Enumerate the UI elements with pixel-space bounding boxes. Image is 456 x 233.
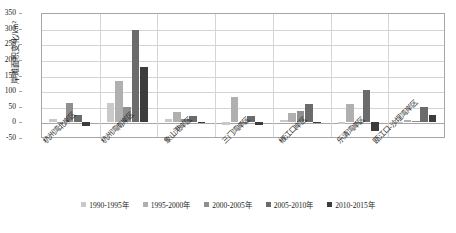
y-axis-tick-label: 250 <box>5 40 16 48</box>
y-axis-tick-mark <box>19 122 22 123</box>
chart-container: 岸滩面积变化/km² 350300250200150100500-50 杭州湾北… <box>0 0 456 233</box>
legend-swatch-icon <box>204 202 209 207</box>
bar <box>420 107 428 123</box>
y-axis: 岸滩面积变化/km² 350300250200150100500-50 <box>0 0 41 152</box>
bar <box>140 67 148 122</box>
legend-swatch-icon <box>266 202 271 207</box>
y-axis-tick-mark <box>19 44 22 45</box>
x-axis-labels: 杭州湾北岸区杭州湾南岸区象山港岸区三门湾岸区椒江口岸区乐清湾岸区瓯江口-沙埕湾岸… <box>41 138 445 196</box>
legend-label: 1995-2000年 <box>151 199 191 210</box>
y-axis-tick-mark <box>19 91 22 92</box>
y-axis-tick-label: 300 <box>5 25 16 33</box>
legend-label: 1990-1995年 <box>89 199 129 210</box>
y-axis-tick-label: -50 <box>6 134 16 142</box>
legend-item[interactable]: 1990-1995年 <box>81 199 129 210</box>
bar <box>280 120 288 122</box>
legend-swatch-icon <box>327 202 332 207</box>
bar <box>429 115 437 123</box>
legend-item[interactable]: 2005-2010年 <box>266 199 314 210</box>
bar <box>82 122 90 126</box>
legend-item[interactable]: 1995-2000年 <box>143 199 191 210</box>
bar <box>412 121 420 122</box>
y-axis-tick-label: 100 <box>5 87 16 95</box>
bar <box>198 122 206 123</box>
bar <box>165 119 173 122</box>
legend-swatch-icon <box>143 202 148 207</box>
legend-item[interactable]: 2010-2015年 <box>327 199 375 210</box>
legend: 1990-1995年1995-2000年2000-2005年2005-2010年… <box>0 199 456 210</box>
bar <box>404 120 412 123</box>
bar <box>107 103 115 122</box>
bar <box>313 122 321 123</box>
y-axis-tick-label: 200 <box>5 56 16 64</box>
bar <box>338 122 346 123</box>
y-axis-tick-mark <box>19 76 22 77</box>
y-axis-tick-mark <box>19 107 22 108</box>
legend-label: 2010-2015年 <box>335 199 375 210</box>
y-axis-tick-mark <box>19 60 22 61</box>
y-axis-title: 岸滩面积变化/km² <box>9 10 20 96</box>
y-axis-tick-mark <box>19 13 22 14</box>
bar <box>132 30 140 123</box>
legend-swatch-icon <box>81 202 86 207</box>
y-axis-tick-mark <box>19 138 22 139</box>
y-axis-tick-mark <box>19 29 22 30</box>
y-axis-tick-label: 50 <box>9 103 17 111</box>
y-axis-tick-label: 150 <box>5 72 16 80</box>
bar <box>255 122 263 124</box>
bar <box>222 122 230 125</box>
legend-label: 2005-2010年 <box>274 199 314 210</box>
legend-label: 2000-2005年 <box>212 199 252 210</box>
y-axis-tick-label: 0 <box>12 118 16 126</box>
legend-item[interactable]: 2000-2005年 <box>204 199 252 210</box>
y-axis-tick-label: 350 <box>5 9 16 17</box>
